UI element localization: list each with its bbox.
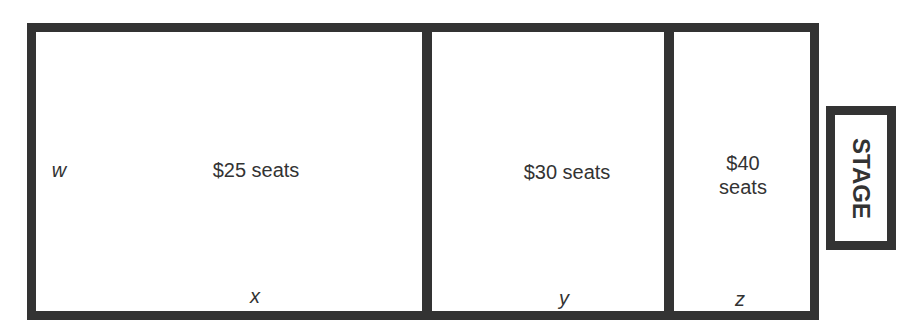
- width-variable-w: w: [52, 159, 66, 182]
- length-variable-y: y: [559, 287, 569, 310]
- stage-label: STAGE: [847, 138, 875, 219]
- section-25-label: $25 seats: [213, 158, 300, 182]
- section-divider-1: [422, 23, 432, 320]
- section-30-label: $30 seats: [524, 160, 611, 184]
- section-40-price: $40: [719, 151, 767, 175]
- length-variable-x: x: [250, 285, 260, 308]
- stage-box: STAGE: [826, 106, 896, 250]
- section-divider-2: [664, 23, 674, 320]
- section-40-label: $40 seats: [719, 151, 767, 199]
- length-variable-z: z: [735, 288, 745, 311]
- section-40-seats: seats: [719, 175, 767, 199]
